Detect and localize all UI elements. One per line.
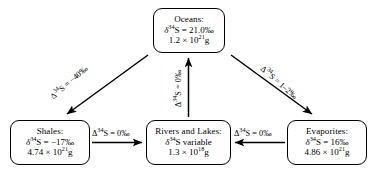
fractionation-value: = 1–2‰ [271, 75, 299, 101]
node-rivers-and-lakes[interactable]: Rivers and Lakes: δ34S variable 1.3 × 10… [146, 120, 231, 165]
edge-label-rivers-to-oceans: Δ34S = 0‰ [174, 70, 183, 107]
node-rivers-isotope: δ34S variable [165, 137, 212, 148]
mass-number: 34 [171, 96, 178, 102]
mass-unit: g [204, 147, 209, 157]
node-oceans-title: Oceans: [174, 14, 204, 25]
edge-label-oceans-to-shales: Δ34S = −40‰ [49, 64, 90, 101]
capital-delta-symbol: Δ [174, 102, 183, 107]
mass-mantissa: 4.74 × 10 [27, 147, 61, 157]
node-shales[interactable]: Shales: δ34S = −17‰ 4.74 × 1021g [10, 120, 90, 165]
fractionation-value: = −40‰ [61, 64, 90, 91]
edge-label-evaporites-to-rivers: Δ34S = 0‰ [234, 129, 271, 138]
mass-unit: g [205, 35, 210, 45]
node-oceans[interactable]: Oceans: δ34S = 21.0‰ 1.2 × 1021g [153, 8, 225, 53]
fractionation-value: = 0‰ [250, 129, 271, 138]
edge-oceans-to-evaporites [231, 55, 312, 114]
mass-unit: g [68, 147, 73, 157]
edge-oceans-to-shales [67, 55, 148, 114]
node-rivers-title: Rivers and Lakes: [155, 126, 222, 137]
edge-label-shales-to-rivers: Δ34S = 0‰ [92, 129, 129, 138]
node-evaporites[interactable]: Evaporites: δ34S = 16‰ 4.86 × 1021g [287, 120, 367, 165]
isotope-value: = 21.0‰ [180, 25, 214, 35]
sulfur-cycle-diagram: Oceans: δ34S = 21.0‰ 1.2 × 1021g Shales:… [0, 0, 377, 170]
mass-mantissa: 4.86 × 10 [304, 147, 338, 157]
node-oceans-isotope: δ34S = 21.0‰ [164, 25, 214, 36]
mass-mantissa: 1.3 × 10 [168, 147, 198, 157]
isotope-value: = −17‰ [41, 137, 74, 147]
isotope-value: variable [181, 137, 212, 147]
fractionation-value: = 0‰ [108, 129, 129, 138]
node-evaporites-mass: 4.86 × 1021g [304, 147, 349, 158]
mass-mantissa: 1.2 × 10 [169, 35, 199, 45]
node-oceans-mass: 1.2 × 1021g [169, 35, 210, 46]
node-shales-title: Shales: [37, 126, 64, 137]
mass-unit: g [345, 147, 350, 157]
node-rivers-mass: 1.3 × 1018g [168, 147, 209, 158]
fractionation-value: = 0‰ [174, 70, 183, 91]
node-shales-mass: 4.74 × 1021g [27, 147, 72, 158]
element-symbol: S [174, 91, 183, 96]
edge-label-oceans-to-evaporites: Δ34S = 1–2‰ [259, 64, 299, 101]
